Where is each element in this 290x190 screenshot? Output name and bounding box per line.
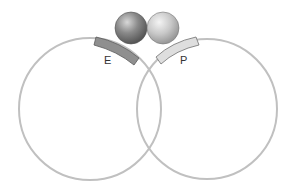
- left-circle: [19, 38, 161, 180]
- e-site-label: E: [104, 54, 111, 66]
- ribosome-site-diagram: E P: [0, 0, 290, 190]
- p-site-label: P: [180, 54, 187, 66]
- left-ball: [115, 12, 147, 44]
- right-ball: [147, 12, 179, 44]
